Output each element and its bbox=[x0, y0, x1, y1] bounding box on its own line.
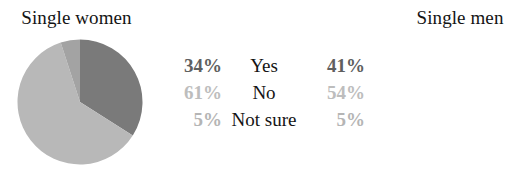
legend-women-pct-not-sure: 5% bbox=[160, 106, 222, 133]
page-title-single-women: Single women bbox=[0, 6, 159, 30]
legend-men-pct-yes: 41% bbox=[306, 52, 365, 79]
legend-men-pct-not-sure: 5% bbox=[306, 106, 365, 133]
pie-chart-single-women bbox=[17, 39, 143, 165]
legend-women-pct-yes: 34% bbox=[160, 52, 222, 79]
legend-row-yes: 34% Yes 41% bbox=[160, 52, 365, 79]
legend-label-not-sure: Not sure bbox=[222, 106, 306, 133]
legend: 34% Yes 41% 61% No 54% 5% Not sure 5% bbox=[160, 52, 365, 133]
legend-men-pct-no: 54% bbox=[306, 79, 365, 106]
panel-single-women: Single women bbox=[0, 0, 165, 174]
legend-label-no: No bbox=[222, 79, 306, 106]
panel-single-men: Single men bbox=[380, 0, 520, 174]
legend-label-yes: Yes bbox=[222, 52, 306, 79]
legend-row-no: 61% No 54% bbox=[160, 79, 365, 106]
page-title-single-men: Single men bbox=[390, 6, 520, 30]
pie-chart-figure: Single women 34% Yes 41% 61% No 54% 5% N… bbox=[0, 0, 520, 174]
pie-svg-women bbox=[17, 39, 143, 165]
legend-women-pct-no: 61% bbox=[160, 79, 222, 106]
legend-row-not-sure: 5% Not sure 5% bbox=[160, 106, 365, 133]
